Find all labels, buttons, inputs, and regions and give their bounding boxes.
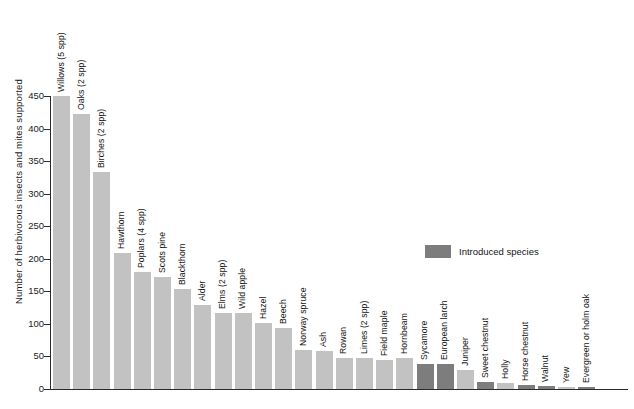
bar [53, 96, 70, 389]
bar [497, 383, 514, 389]
bar-category-label: Willows (5 spp) [56, 32, 66, 92]
y-axis-tick-label: 350 [0, 155, 53, 166]
plot-area: Willows (5 spp)Oaks (2 spp)Birches (2 sp… [53, 90, 628, 389]
y-axis-tick-label: 450 [0, 90, 53, 101]
bar-category-label: European larch [439, 301, 449, 361]
bar-category-label: Wild apple [237, 268, 247, 309]
bar [538, 386, 555, 389]
bar-category-label: Juniper [460, 337, 470, 366]
bar [215, 313, 232, 389]
y-axis-tick-label: 300 [0, 188, 53, 199]
bar-category-label: Oaks (2 spp) [76, 59, 86, 109]
bar [73, 114, 90, 389]
bar-category-label: Sycamore [419, 321, 429, 361]
bar-category-label: Ash [318, 332, 328, 347]
bar-category-label: Elms (2 spp) [217, 260, 227, 309]
bar [396, 358, 413, 389]
bar-chart: Number of herbivorous insects and mites … [0, 0, 634, 409]
bar [518, 385, 535, 389]
y-axis-tick-label: 250 [0, 220, 53, 231]
bar [114, 253, 131, 389]
bar [93, 172, 110, 389]
bar-category-label: Rowan [338, 327, 348, 354]
bar [437, 364, 454, 389]
bar-category-label: Norway spruce [298, 287, 308, 346]
y-axis-tick-label: 0 [0, 383, 53, 394]
bar-category-label: Walnut [540, 355, 550, 382]
y-axis-tick-label: 100 [0, 318, 53, 329]
bar-category-label: Hawthorn [116, 211, 126, 249]
bar [558, 387, 575, 389]
bar [457, 370, 474, 389]
bar-category-label: Poplars (4 spp) [136, 209, 146, 269]
bar [194, 305, 211, 389]
bar [417, 364, 434, 389]
y-axis-line [50, 96, 51, 390]
bar-category-label: Horse chestnut [520, 322, 530, 381]
bar [295, 350, 312, 389]
legend-label-introduced: Introduced species [459, 246, 539, 257]
bar [316, 351, 333, 389]
bar [235, 313, 252, 389]
bar-category-label: Holly [500, 360, 510, 380]
bar-category-label: Alder [197, 280, 207, 301]
bar [578, 387, 595, 389]
bar [134, 272, 151, 389]
bar-category-label: Blackthorn [177, 244, 187, 286]
bar-category-label: Birches (2 spp) [96, 108, 106, 167]
legend: Introduced species [425, 245, 539, 258]
bar [356, 358, 373, 389]
x-axis-line [50, 389, 628, 390]
bar-category-label: Evergreen or holm oak [581, 294, 591, 383]
legend-swatch-introduced [425, 245, 451, 258]
bar-category-label: Field maple [379, 311, 389, 357]
bar [255, 323, 272, 389]
y-axis-tick-label: 150 [0, 285, 53, 296]
bar-category-label: Beech [278, 300, 288, 325]
bar [275, 328, 292, 389]
bar-category-label: Hornbeam [399, 313, 409, 354]
bar [477, 382, 494, 389]
y-axis-tick-label: 400 [0, 123, 53, 134]
bar-category-label: Hazel [258, 296, 268, 318]
bar [174, 289, 191, 389]
bar-category-label: Scots pine [157, 232, 167, 273]
bar [376, 360, 393, 389]
y-axis-tick-label: 200 [0, 253, 53, 264]
bar-category-label: Sweet chestnut [480, 318, 490, 378]
bar [336, 358, 353, 389]
bar-category-label: Limes (2 spp) [359, 301, 369, 354]
bar [154, 277, 171, 389]
bar-category-label: Yew [561, 367, 571, 383]
y-axis-tick-label: 50 [0, 350, 53, 361]
